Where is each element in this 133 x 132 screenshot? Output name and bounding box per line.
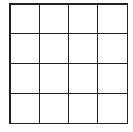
grid-cell-r4-c1 bbox=[10, 93, 40, 124]
grid-cell-r2-c1 bbox=[10, 33, 40, 64]
grid-cell-r3-c4 bbox=[97, 63, 127, 94]
empty-grid bbox=[9, 3, 128, 124]
grid-cell-r2-c3 bbox=[68, 33, 98, 64]
grid-cell-r1-c1 bbox=[10, 4, 40, 35]
grid-cell-r3-c2 bbox=[39, 63, 69, 94]
grid-cell-r1-c4 bbox=[97, 4, 127, 35]
grid-cell-r1-c2 bbox=[39, 4, 69, 35]
grid-cell-r1-c3 bbox=[68, 4, 98, 35]
grid-cell-r3-c3 bbox=[68, 63, 98, 94]
grid-cell-r3-c1 bbox=[10, 63, 40, 94]
grid-cell-r4-c4 bbox=[97, 93, 127, 124]
grid-cell-r4-c3 bbox=[68, 93, 98, 124]
grid-cell-r2-c2 bbox=[39, 33, 69, 64]
grid-cell-r4-c2 bbox=[39, 93, 69, 124]
grid-cell-r2-c4 bbox=[97, 33, 127, 64]
